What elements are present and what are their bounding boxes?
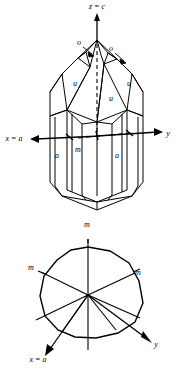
face-label-u-center: u [109,94,113,103]
section-label-m-left: m [28,263,34,272]
y-axis [97,128,163,136]
figure-canvas: z = c x = a y o o u u u m a a [0,0,178,370]
section-x-axis [45,295,88,356]
axis-tick-marks [66,130,133,140]
section-m-traces [38,239,140,274]
section-axis-label-y: y [153,340,158,349]
lower-section-group: m m m x = a y [28,220,158,364]
axis-label-y: y [165,129,170,138]
face-label-a-right: a [115,151,119,160]
crystal-figure: z = c x = a y o o u u u m a a [0,0,178,370]
section-radiating-lines [36,239,140,350]
axis-label-x: x = a [5,134,23,143]
face-label-m-center: m [75,145,81,154]
z-axis [94,13,100,40]
axis-label-z: z = c [88,2,106,11]
section-label-m-right: m [135,268,141,277]
face-label-a-left: a [55,151,59,160]
section-label-m-top: m [84,220,90,229]
x-axis [30,135,100,143]
upper-crystal-group: z = c x = a y o o u u u m a a [5,2,171,210]
face-label-o-right: o [109,44,113,53]
face-label-u-left: u [73,79,77,88]
section-axis-label-x: x = a [29,355,47,364]
face-label-u-right: u [127,79,131,88]
face-label-o-left: o [77,38,81,47]
